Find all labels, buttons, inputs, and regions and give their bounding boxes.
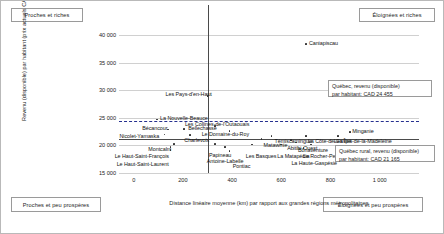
callout-quebec-income: Québec, revenu (disponible) par habitant… <box>328 80 432 97</box>
scatter-point-label: Les Collines-de-l'Outaouais <box>185 121 249 127</box>
x-tick-label: 0 <box>114 177 154 183</box>
callout-quebec-line1: Québec, revenu (disponible) <box>332 83 428 91</box>
quadrant-label-proches-et-peu-prosperes: Proches et peu prospères <box>11 197 101 212</box>
scatter-point <box>305 43 307 45</box>
scatter-point <box>305 135 307 137</box>
reference-line-distance <box>208 5 209 173</box>
scatter-point <box>164 134 166 136</box>
gridline <box>119 173 419 174</box>
scatter-point-label: Les Pays-d'en-Haut <box>166 91 212 97</box>
scatter-point-label: Charlevoix <box>184 137 209 143</box>
chart-figure: Proches et riches Éloignées et riches Pr… <box>0 0 444 234</box>
quadrant-label-eloignees-et-riches: Éloignées et riches <box>359 8 435 22</box>
y-tick-label: 30 000 <box>56 87 116 93</box>
scatter-point <box>214 143 216 145</box>
callout-rural-line1: Québec rural, revenu (disponible) <box>339 148 431 156</box>
callout-rural-line2: par habitant: CAD 21 165 <box>339 156 431 164</box>
scatter-point-label: Les Îles-de-la-Madeleine <box>334 138 392 144</box>
scatter-point-label: Bécancour <box>142 125 167 131</box>
y-tick-label: 35 000 <box>56 60 116 66</box>
x-tick-label: 1 000 <box>360 177 400 183</box>
scatter-point-label: Matawinie <box>264 142 288 148</box>
x-tick-label: 200 <box>163 177 203 183</box>
scatter-point <box>189 134 191 136</box>
x-tick-label: 800 <box>310 177 350 183</box>
scatter-point <box>337 135 339 137</box>
y-tick-label: 15 000 <box>56 170 116 176</box>
y-axis-title: Revenu (disponible) par habitant (prix a… <box>21 0 27 133</box>
gridline <box>119 35 419 36</box>
scatter-point-label: La Nouvelle-Beauce <box>160 115 208 121</box>
gridline <box>119 63 419 64</box>
y-tick-label: 25 000 <box>56 115 116 121</box>
x-tick-label: 400 <box>212 177 252 183</box>
x-tick-label: 600 <box>261 177 301 183</box>
scatter-point-label: Les Basques <box>246 153 277 159</box>
scatter-point-label: Montcalm <box>148 146 171 152</box>
callout-quebec-line2: par habitant: CAD 24 455 <box>332 91 428 99</box>
scatter-point-label: Le Haut-Saint-Laurent <box>117 161 169 167</box>
scatter-point <box>349 131 351 133</box>
y-tick-label: 40 000 <box>56 32 116 38</box>
scatter-point-label: Minganie <box>352 128 373 134</box>
callout-quebec-rural-income: Québec rural, revenu (disponible) par ha… <box>335 145 435 162</box>
scatter-point <box>290 139 292 141</box>
scatter-point-label: Pontiac <box>233 163 251 169</box>
scatter-point-label: Le Haut-Saint-François <box>115 153 169 159</box>
scatter-point-label: Le Domaine-du-Roy <box>202 131 249 137</box>
scatter-point <box>224 146 226 148</box>
scatter-point-label: Caniapiscau <box>309 40 338 46</box>
scatter-point-label: La Haute-Gaspésie <box>291 160 337 166</box>
y-tick-label: 20 000 <box>56 142 116 148</box>
scatter-point-label: Nicolet-Yamaska <box>119 133 159 139</box>
reference-line-quebec <box>119 121 419 122</box>
scatter-point <box>183 128 185 130</box>
x-axis-title: Distance linéaire moyenne (km) par rappo… <box>119 200 419 206</box>
scatter-point <box>271 135 273 137</box>
